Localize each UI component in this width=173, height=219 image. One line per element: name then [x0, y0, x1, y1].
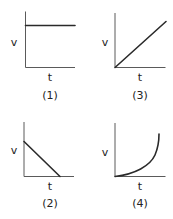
- graph-1-xlabel: t: [48, 71, 53, 84]
- graph-2-ylabel: v: [11, 144, 18, 157]
- graph-2-xlabel: t: [48, 180, 53, 193]
- graph-1-ylabel: v: [11, 36, 18, 49]
- graph-3-line: [115, 22, 166, 68]
- graph-1: v t (1): [11, 12, 75, 103]
- graph-1-caption: (1): [42, 89, 58, 102]
- graph-4-xlabel: t: [138, 180, 143, 193]
- velocity-time-graphs: v t (1) v t (3) v t (2) v t (4): [0, 0, 173, 219]
- graph-3-caption: (3): [132, 89, 148, 102]
- graph-3-ylabel: v: [102, 36, 109, 49]
- graph-2-line: [24, 142, 60, 177]
- graph-4-caption: (4): [132, 197, 148, 210]
- graph-3: v t (3): [102, 13, 166, 102]
- graph-4-curve: [115, 134, 159, 177]
- graph-3-axes: [115, 13, 166, 68]
- graph-4-ylabel: v: [102, 146, 109, 159]
- graph-4: v t (4): [102, 123, 166, 210]
- graph-2: v t (2): [11, 122, 74, 210]
- graph-1-axes: [26, 12, 76, 68]
- graph-3-xlabel: t: [138, 71, 143, 84]
- graph-2-caption: (2): [42, 197, 58, 210]
